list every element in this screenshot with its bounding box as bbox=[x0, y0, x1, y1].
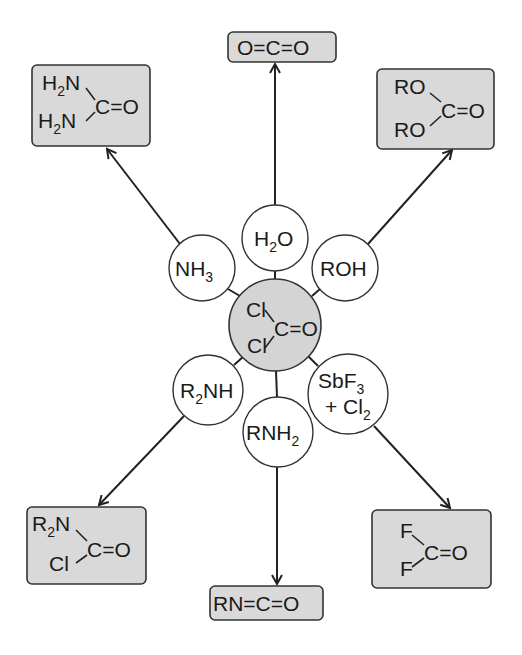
reagent-roh: ROH bbox=[312, 235, 378, 301]
svg-text:C=O: C=O bbox=[424, 541, 468, 564]
svg-text:Cl: Cl bbox=[246, 298, 266, 321]
svg-text:F: F bbox=[400, 519, 413, 542]
svg-text:ROH: ROH bbox=[320, 257, 367, 280]
svg-text:O=C=O: O=C=O bbox=[237, 36, 309, 59]
product-carbonyl-fluoride: F F C=O bbox=[372, 510, 491, 588]
product-isocyanate: RN=C=O bbox=[210, 586, 323, 620]
center-phosgene: Cl Cl C=O bbox=[229, 279, 321, 371]
arrow-to-cof2 bbox=[374, 426, 450, 508]
reagent-nh3: NH3 bbox=[169, 235, 235, 301]
reagent-sbf3-cl2: SbF3 + Cl2 bbox=[308, 354, 388, 434]
arrow-to-urea bbox=[107, 149, 180, 244]
reagent-rnh2: RNH2 bbox=[243, 397, 313, 467]
svg-text:Cl: Cl bbox=[247, 334, 267, 357]
svg-text:C=O: C=O bbox=[274, 317, 318, 340]
svg-text:C=O: C=O bbox=[95, 95, 139, 118]
product-carbamoyl-chloride: R2N Cl C=O bbox=[27, 507, 146, 584]
svg-text:RO: RO bbox=[394, 118, 426, 141]
svg-text:RO: RO bbox=[394, 75, 426, 98]
link-roh bbox=[312, 289, 320, 296]
link-rnh2 bbox=[276, 371, 277, 397]
reagent-h2o: H2O bbox=[242, 205, 308, 271]
svg-text:C=O: C=O bbox=[87, 538, 131, 561]
product-co2: O=C=O bbox=[228, 32, 336, 62]
product-urea: H2N H2N C=O bbox=[32, 65, 150, 146]
phosgene-reaction-diagram: Cl Cl C=O H2O NH3 ROH R2NH RNH2 SbF3 + C… bbox=[0, 0, 522, 655]
link-nh3 bbox=[228, 289, 240, 296]
link-sbf3 bbox=[308, 356, 318, 366]
svg-text:F: F bbox=[400, 557, 413, 580]
svg-text:Cl: Cl bbox=[49, 552, 69, 575]
product-carbonate: RO RO C=O bbox=[377, 69, 494, 149]
reagent-r2nh: R2NH bbox=[173, 355, 243, 425]
svg-text:C=O: C=O bbox=[441, 99, 485, 122]
arrow-to-carbamoyl bbox=[99, 416, 184, 505]
svg-text:RN=C=O: RN=C=O bbox=[213, 592, 299, 615]
arrow-to-carbonate bbox=[368, 150, 452, 244]
